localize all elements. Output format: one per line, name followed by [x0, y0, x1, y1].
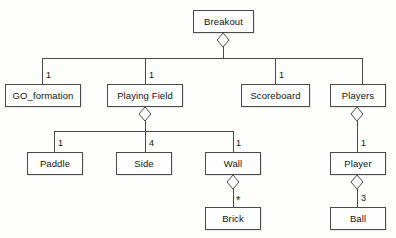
diamond-playing-field: [139, 107, 151, 121]
mult-brick: *: [236, 195, 240, 206]
diamond-player: [351, 175, 363, 189]
mult-paddle: 1: [58, 139, 63, 148]
class-box-breakout[interactable]: Breakout: [193, 10, 254, 33]
mult-go-formation: 1: [46, 71, 51, 80]
class-box-label: Players: [342, 91, 374, 101]
class-box-playing_field[interactable]: Playing Field: [107, 84, 183, 107]
class-box-label: Scoreboard: [250, 91, 300, 101]
class-box-players[interactable]: Players: [330, 84, 386, 107]
mult-player: 1: [361, 139, 366, 148]
class-box-label: Side: [134, 159, 153, 169]
diagram-canvas: BreakoutGO_formationPlaying FieldScorebo…: [0, 0, 396, 238]
diagram-connectors: [0, 0, 396, 238]
class-box-label: GO_formation: [13, 91, 74, 101]
class-box-wall[interactable]: Wall: [205, 152, 261, 175]
class-box-player[interactable]: Player: [330, 152, 386, 175]
mult-ball: 3: [361, 194, 366, 203]
class-box-label: Player: [344, 159, 372, 169]
mult-side: 4: [149, 139, 154, 148]
diamond-wall: [227, 175, 239, 189]
class-box-label: Playing Field: [117, 91, 173, 101]
diamond-breakout: [217, 33, 229, 47]
class-box-brick[interactable]: Brick: [205, 207, 261, 230]
class-box-label: Breakout: [204, 17, 243, 27]
mult-scoreboard: 1: [279, 71, 284, 80]
mult-wall: 1: [236, 139, 241, 148]
class-box-side[interactable]: Side: [116, 152, 172, 175]
mult-playing-field: 1: [149, 71, 154, 80]
class-box-label: Brick: [222, 214, 244, 224]
class-box-label: Paddle: [40, 159, 70, 169]
class-box-paddle[interactable]: Paddle: [27, 152, 83, 175]
class-box-ball[interactable]: Ball: [330, 207, 386, 230]
class-box-label: Wall: [224, 159, 243, 169]
class-box-go_formation[interactable]: GO_formation: [5, 84, 81, 107]
class-box-label: Ball: [350, 214, 366, 224]
class-box-scoreboard[interactable]: Scoreboard: [241, 84, 310, 107]
diamond-players: [351, 107, 363, 121]
